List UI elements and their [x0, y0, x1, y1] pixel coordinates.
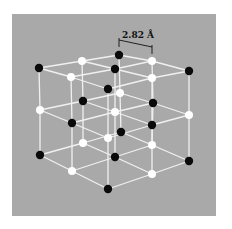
anion-atom — [104, 134, 112, 142]
anion-atom — [116, 89, 124, 97]
dimension-label: 2.82 Å — [122, 29, 155, 40]
cation-atom — [111, 153, 119, 161]
anion-atom — [185, 111, 193, 119]
cation-atom — [36, 151, 44, 159]
anion-atom — [78, 57, 86, 65]
anion-atom — [111, 108, 119, 116]
cation-atom — [149, 99, 157, 107]
cation-atom — [117, 128, 125, 136]
cation-atom — [148, 121, 156, 129]
cation-atom — [79, 97, 87, 105]
anion-atom — [67, 73, 75, 81]
cation-atom — [104, 185, 112, 193]
anion-atom — [148, 141, 156, 149]
anion-atom — [36, 106, 44, 114]
anion-atom — [68, 167, 76, 175]
anion-atom — [79, 139, 87, 147]
cation-atom — [185, 157, 193, 165]
anion-atom — [148, 57, 156, 65]
anion-atom — [148, 170, 156, 178]
cation-atom — [104, 85, 112, 93]
cation-atom — [35, 64, 43, 72]
cation-atom — [111, 65, 119, 73]
nacl-lattice-figure: 2.82 Å — [0, 0, 232, 229]
anion-atom — [148, 74, 156, 82]
cation-atom — [68, 119, 76, 127]
cation-atom — [185, 67, 193, 75]
cation-atom — [115, 51, 123, 59]
